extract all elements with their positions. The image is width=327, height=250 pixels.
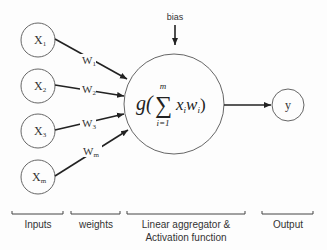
section-label-aggregator-line2: Activation function: [120, 232, 252, 244]
bracket-aggregator: [127, 211, 245, 214]
input-label-x2: X2: [34, 79, 47, 94]
activation-func: g(: [136, 92, 154, 115]
section-label-inputs: Inputs: [12, 219, 64, 231]
bracket-weights: [71, 211, 120, 214]
bracket-output: [262, 211, 313, 214]
sum-lower-bound: i=1: [156, 118, 169, 128]
section-label-weights: weights: [70, 219, 122, 231]
input-label-xm: Xm: [32, 170, 47, 185]
neuron-formula: g( ∑ m i=1 xiwi): [136, 81, 206, 128]
bracket-inputs: [12, 211, 63, 214]
input-label-x3: X3: [34, 124, 47, 139]
section-label-aggregator-line1: Linear aggregator &: [120, 219, 252, 231]
perceptron-diagram: bias X1 X2 X3 Xm W1 W2 W3 Wm g( ∑ m i=1 …: [0, 0, 327, 250]
input-label-x1: X1: [34, 33, 47, 48]
section-label-output: Output: [261, 219, 315, 231]
output-label: y: [285, 98, 291, 112]
sum-term: xiwi): [175, 95, 206, 115]
sum-upper-bound: m: [160, 81, 167, 91]
bias-label: bias: [167, 12, 184, 22]
sum-symbol: ∑: [155, 92, 172, 119]
diagram-graphics: bias X1 X2 X3 Xm W1 W2 W3 Wm g( ∑ m i=1 …: [0, 0, 327, 250]
